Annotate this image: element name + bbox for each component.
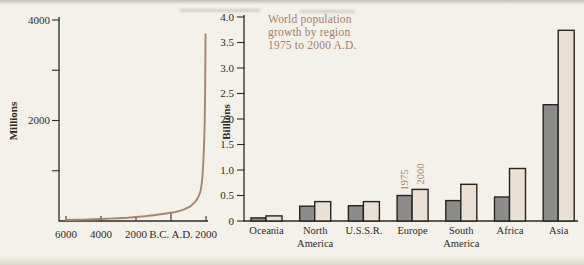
- bar-chart-y-tick-label: 0: [229, 215, 235, 227]
- bar-2000: [363, 202, 379, 221]
- bar-chart-y-tick-label: 3.5: [220, 36, 234, 48]
- bar-chart-title-line-3: 1975 to 2000 A.D.: [268, 39, 357, 52]
- bar-chart-y-tick-label: 1.0: [220, 164, 234, 176]
- bar-1975: [543, 105, 558, 221]
- bar-1975: [251, 218, 266, 221]
- line-chart-y-tick-label: 2000: [28, 114, 51, 126]
- region-label: North: [303, 225, 328, 236]
- bar-1975: [348, 206, 363, 221]
- bar-1975: [446, 201, 461, 221]
- region-label: South: [449, 225, 474, 236]
- bar-chart-y-tick-label: 0.5: [220, 189, 234, 201]
- bar-1975: [397, 196, 412, 222]
- line-chart-x-tick-label: B.C. A.D.: [149, 228, 193, 240]
- region-label: America: [297, 238, 333, 249]
- bar-2000: [558, 30, 574, 221]
- bar-1975: [495, 197, 510, 221]
- scan-edge-artifact-bottom: [0, 255, 584, 265]
- bar-2000: [510, 169, 526, 222]
- bar-2000: [461, 184, 477, 221]
- scan-smudge-artifact: [300, 10, 355, 13]
- bar-1975: [300, 206, 315, 221]
- region-label: America: [443, 238, 479, 249]
- region-label: U.S.S.R.: [346, 225, 383, 236]
- bar-chart-y-tick-label: 3.0: [220, 62, 234, 74]
- bar-chart-title-line-1: World population: [268, 13, 357, 26]
- region-label: Europe: [397, 225, 428, 236]
- bar-chart-y-tick-label: 2.5: [220, 87, 234, 99]
- bar-2000: [266, 216, 282, 221]
- bar-chart-y-axis-label: Billions: [220, 104, 232, 139]
- line-chart-x-tick-label: 2000: [125, 228, 148, 240]
- scan-smudge-artifact: [180, 9, 260, 12]
- bar-chart-title: World population growth by region 1975 t…: [268, 13, 357, 52]
- bar-2000: [315, 202, 331, 221]
- line-chart-x-tick-label: 2000: [195, 228, 218, 240]
- bar-2000: [412, 189, 428, 221]
- line-chart-x-tick-label: 4000: [90, 228, 113, 240]
- bar-chart-title-line-2: growth by region: [268, 26, 357, 39]
- region-label: Oceania: [249, 225, 284, 236]
- series-label-1975: 1975: [399, 170, 410, 191]
- region-label: Asia: [549, 225, 569, 236]
- line-chart-world-population: 20004000600040002000B.C. A.D.2000: [28, 14, 218, 241]
- scan-edge-artifact-top: [0, 0, 584, 6]
- bar-chart-y-tick-label: 4.0: [220, 11, 234, 23]
- line-chart-y-tick-label: 4000: [28, 14, 51, 26]
- line-chart-y-axis-label: Millions: [7, 102, 19, 141]
- line-chart-x-tick-label: 6000: [55, 228, 78, 240]
- population-growth-curve: [66, 34, 206, 220]
- series-label-2000: 2000: [415, 163, 426, 184]
- line-chart-axes: [59, 17, 208, 221]
- region-label: Africa: [497, 225, 524, 236]
- scanned-figure-page: 20004000600040002000B.C. A.D.20004.03.53…: [0, 0, 584, 265]
- bar-chart-y-tick-label: 1.5: [220, 138, 234, 150]
